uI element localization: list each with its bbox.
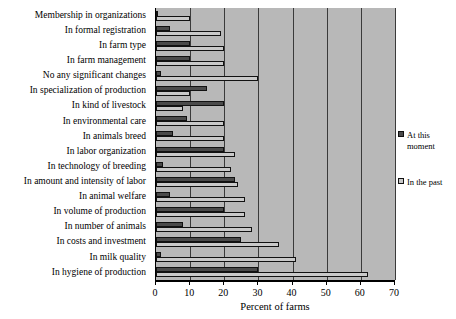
bar-row [156, 265, 395, 280]
x-tick-label: 50 [311, 287, 341, 298]
category-label: In environmental care [0, 114, 150, 129]
category-label: In specialization of production [0, 84, 150, 99]
legend-label: At this moment [407, 130, 456, 151]
category-label: In farm management [0, 53, 150, 68]
bar-row [156, 220, 395, 235]
x-tick [223, 280, 224, 285]
x-tick [155, 280, 156, 285]
legend-label: In the past [407, 177, 442, 188]
bar-in-the-past [156, 61, 224, 66]
bar-row [156, 174, 395, 189]
bar-in-the-past [156, 257, 296, 262]
category-label: In technology of breeding [0, 159, 150, 174]
bar-row [156, 84, 395, 99]
bar-in-the-past [156, 16, 190, 21]
gridline [395, 8, 396, 280]
legend-swatch-icon [398, 131, 404, 137]
category-label: In volume of production [0, 204, 150, 219]
bar-row [156, 8, 395, 23]
bar-in-the-past [156, 212, 245, 217]
bar-row [156, 38, 395, 53]
x-tick [394, 280, 395, 285]
bar-rows [156, 8, 395, 280]
category-label: In kind of livestock [0, 99, 150, 114]
x-tick-label: 70 [379, 287, 409, 298]
bar-in-the-past [156, 106, 183, 111]
bar-row [156, 68, 395, 83]
legend-item: In the past [398, 177, 456, 188]
bar-in-the-past [156, 91, 190, 96]
bar-row [156, 159, 395, 174]
legend-swatch-icon [398, 178, 404, 184]
bar-row [156, 129, 395, 144]
x-tick [292, 280, 293, 285]
category-label: In costs and investment [0, 235, 150, 250]
bar-in-the-past [156, 167, 231, 172]
legend-item: At this moment [398, 130, 456, 151]
category-label: In amount and intensity of labor [0, 174, 150, 189]
category-label: In animal welfare [0, 189, 150, 204]
category-label: No any significant changes [0, 68, 150, 83]
bar-in-the-past [156, 121, 224, 126]
category-label: In farm type [0, 38, 150, 53]
horizontal-bar-chart: Membership in organizationsIn formal reg… [0, 0, 456, 319]
category-label: In number of animals [0, 220, 150, 235]
bar-row [156, 99, 395, 114]
x-tick-label: 40 [277, 287, 307, 298]
bar-in-the-past [156, 46, 224, 51]
x-tick-label: 60 [345, 287, 375, 298]
bar-row [156, 189, 395, 204]
bar-in-the-past [156, 197, 245, 202]
bar-in-the-past [156, 76, 258, 81]
bar-row [156, 144, 395, 159]
category-label: In animals breed [0, 129, 150, 144]
category-label: In hygiene of production [0, 265, 150, 280]
bar-in-the-past [156, 272, 368, 277]
plot-area [155, 8, 395, 280]
category-label: Membership in organizations [0, 8, 150, 23]
x-tick [189, 280, 190, 285]
category-label: In labor organization [0, 144, 150, 159]
bar-row [156, 53, 395, 68]
x-tick-label: 10 [174, 287, 204, 298]
category-label: In formal registration [0, 23, 150, 38]
legend: At this momentIn the past [398, 130, 456, 214]
bar-in-the-past [156, 31, 221, 36]
bar-row [156, 114, 395, 129]
bar-in-the-past [156, 136, 224, 141]
x-tick [326, 280, 327, 285]
bar-row [156, 235, 395, 250]
x-tick [360, 280, 361, 285]
x-tick-label: 0 [140, 287, 170, 298]
bar-row [156, 250, 395, 265]
bar-in-the-past [156, 242, 279, 247]
category-label: In milk quality [0, 250, 150, 265]
x-tick [257, 280, 258, 285]
bar-row [156, 23, 395, 38]
bar-in-the-past [156, 152, 235, 157]
x-tick-label: 20 [208, 287, 238, 298]
bar-row [156, 204, 395, 219]
category-labels-axis: Membership in organizationsIn formal reg… [0, 8, 150, 280]
x-axis-title: Percent of farms [155, 301, 395, 312]
x-tick-label: 30 [242, 287, 272, 298]
bar-in-the-past [156, 182, 238, 187]
bar-in-the-past [156, 227, 252, 232]
